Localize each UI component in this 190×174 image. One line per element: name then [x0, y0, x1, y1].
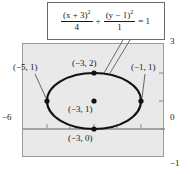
point-center [91, 98, 96, 103]
point-left-vertex [44, 98, 49, 103]
point-right-vertex [138, 98, 143, 103]
label-right-vertex: (−1, 1) [131, 62, 156, 72]
equation-plus-operator: + [96, 17, 101, 26]
equation-term-y: (y − 1)2 1 [104, 11, 136, 32]
label-left-vertex: (−5, 1) [13, 62, 38, 72]
equation-exponent-x: 2 [88, 9, 91, 15]
label-bottom-vertex: (−3, 0) [68, 133, 93, 143]
y-axis-ticks [159, 73, 164, 129]
ellipse-figure: (x + 3)2 4 + (y − 1)2 1 = 1 [0, 0, 190, 174]
equation-numerator-y: (y − 1)2 [104, 11, 136, 22]
y-axis-min-label: −1 [170, 158, 180, 168]
label-center: (−3, 1) [68, 104, 93, 114]
equation-callout-box: (x + 3)2 4 + (y − 1)2 1 = 1 [47, 2, 165, 40]
point-bottom-vertex [91, 126, 96, 131]
label-top-vertex: (−3, 2) [72, 58, 97, 68]
x-axis-max-label: 0 [170, 112, 175, 122]
equation-denominator-y: 1 [115, 22, 124, 32]
leader-left-vertex [35, 74, 46, 98]
ellipse-equation: (x + 3)2 4 + (y − 1)2 1 = 1 [60, 11, 152, 32]
point-top-vertex [91, 70, 96, 75]
leader-right-vertex [142, 74, 145, 98]
equation-numerator-y-text: (y − 1) [106, 10, 131, 20]
x-axis-min-label: −6 [2, 112, 12, 122]
equation-numerator-x-text: (x + 3) [63, 10, 88, 20]
equation-denominator-x: 4 [73, 22, 82, 32]
equation-numerator-x: (x + 3)2 [61, 11, 93, 22]
equation-term-x: (x + 3)2 4 [61, 11, 93, 32]
equation-equals-one: = 1 [138, 17, 150, 26]
equation-exponent-y: 2 [130, 9, 133, 15]
y-axis-max-label: 3 [170, 36, 175, 46]
